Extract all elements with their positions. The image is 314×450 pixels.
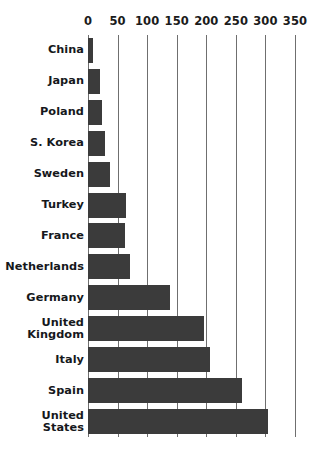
x-tick-label-50: 50	[109, 14, 125, 28]
bar-row: Poland	[0, 97, 314, 128]
bar-italy	[88, 347, 210, 372]
bar-spain	[88, 378, 242, 403]
category-label-netherlands: Netherlands	[0, 261, 84, 273]
bar-united-states	[88, 409, 268, 434]
x-tick-label-250: 250	[224, 14, 248, 28]
bar-turkey	[88, 193, 126, 218]
bar-china	[88, 38, 93, 63]
bar-row: United States	[0, 406, 314, 437]
x-tick-label-0: 0	[84, 14, 92, 28]
bar-row: Netherlands	[0, 251, 314, 282]
bar-row: Sweden	[0, 159, 314, 190]
x-tick-label-200: 200	[194, 14, 218, 28]
bar-row: China	[0, 35, 314, 66]
x-tick-label-300: 300	[253, 14, 277, 28]
chart-plot-area: ChinaJapanPolandS. KoreaSwedenTurkeyFran…	[0, 35, 314, 437]
category-label-italy: Italy	[0, 353, 84, 365]
bar-united-kingdom	[88, 316, 204, 341]
category-label-sweden: Sweden	[0, 168, 84, 180]
bar-poland	[88, 100, 102, 125]
category-label-france: France	[0, 230, 84, 242]
category-label-turkey: Turkey	[0, 199, 84, 211]
bar-row: Turkey	[0, 190, 314, 221]
bar-row: Italy	[0, 344, 314, 375]
bar-row: S. Korea	[0, 128, 314, 159]
x-tick-label-100: 100	[135, 14, 159, 28]
bar-s-korea	[88, 131, 105, 156]
category-label-china: China	[0, 44, 84, 56]
x-tick-label-150: 150	[165, 14, 189, 28]
category-label-united-states: United States	[0, 409, 84, 434]
bar-row: Germany	[0, 282, 314, 313]
category-label-united-kingdom: United Kingdom	[0, 316, 84, 341]
category-label-germany: Germany	[0, 292, 84, 304]
bar-row: Spain	[0, 375, 314, 406]
bar-germany	[88, 285, 170, 310]
category-label-spain: Spain	[0, 384, 84, 396]
bar-row: France	[0, 221, 314, 252]
bar-netherlands	[88, 254, 130, 279]
category-label-japan: Japan	[0, 75, 84, 87]
bar-japan	[88, 69, 100, 94]
bar-row: Japan	[0, 66, 314, 97]
category-label-s-korea: S. Korea	[0, 137, 84, 149]
bar-sweden	[88, 162, 110, 187]
x-tick-label-350: 350	[283, 14, 307, 28]
x-axis-tick-labels: 050100150200250300350	[0, 14, 314, 32]
bar-france	[88, 223, 125, 248]
bar-chart: 050100150200250300350 ChinaJapanPolandS.…	[0, 0, 314, 450]
category-label-poland: Poland	[0, 106, 84, 118]
bar-row: United Kingdom	[0, 313, 314, 344]
